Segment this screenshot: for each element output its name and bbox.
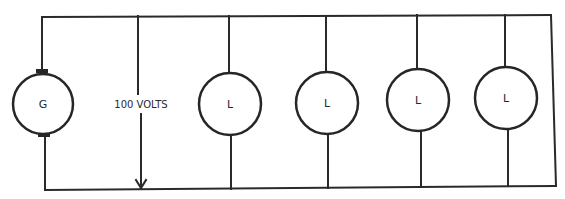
generator-top-brush (36, 69, 48, 73)
top-bus-wire (42, 15, 551, 17)
load-4: L (475, 67, 537, 129)
circuit-diagram: G 100 VOLTS L L L L (0, 0, 565, 199)
load-label: L (503, 92, 510, 105)
voltage-label: 100 VOLTS (114, 99, 167, 110)
load-3: L (387, 69, 449, 131)
right-return-wire (551, 15, 556, 186)
generator-label: G (39, 98, 48, 111)
generator-bottom-brush (38, 133, 50, 137)
load-label: L (415, 94, 422, 107)
bottom-bus-wire (45, 186, 556, 190)
generator: G (13, 69, 73, 137)
load-2: L (296, 72, 358, 134)
load-label: L (324, 97, 331, 110)
load-1: L (199, 73, 261, 135)
load-label: L (227, 98, 234, 111)
